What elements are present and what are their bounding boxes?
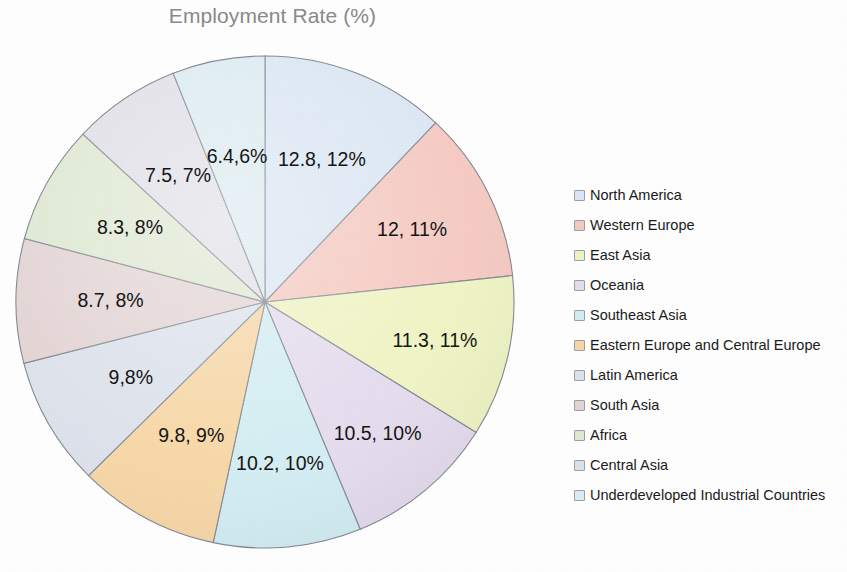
legend-item[interactable]: Southeast Asia (574, 300, 844, 330)
legend-item-label: Central Asia (590, 458, 668, 473)
legend-item[interactable]: Eastern Europe and Central Europe (574, 330, 844, 360)
pie-slice-label: 9.8, 9% (158, 424, 224, 446)
chart-legend: North AmericaWestern EuropeEast AsiaOcea… (574, 180, 844, 510)
pie-slice-label: 6.4,6% (207, 145, 268, 167)
legend-item-label: Africa (590, 428, 627, 443)
legend-item-label: Underdeveloped Industrial Countries (590, 488, 825, 503)
legend-item[interactable]: South Asia (574, 390, 844, 420)
legend-item-label: Oceania (590, 278, 644, 293)
legend-item[interactable]: Underdeveloped Industrial Countries (574, 480, 844, 510)
legend-swatch-icon (574, 220, 585, 231)
legend-item[interactable]: Africa (574, 420, 844, 450)
chart-title: Employment Rate (%) (0, 4, 545, 28)
legend-swatch-icon (574, 340, 585, 351)
pie-slice-label: 12.8, 12% (278, 148, 366, 170)
legend-item-label: North America (590, 188, 682, 203)
legend-item-label: South Asia (590, 398, 659, 413)
pie-slice-label: 12, 11% (377, 218, 447, 240)
legend-swatch-icon (574, 460, 585, 471)
legend-item[interactable]: East Asia (574, 240, 844, 270)
pie-slice-label: 11.3, 11% (392, 329, 477, 351)
pie-slice-label: 9,8% (109, 366, 153, 388)
legend-swatch-icon (574, 490, 585, 501)
legend-swatch-icon (574, 370, 585, 381)
legend-swatch-icon (574, 310, 585, 321)
legend-item-label: Eastern Europe and Central Europe (590, 338, 821, 353)
legend-swatch-icon (574, 430, 585, 441)
pie-slice-label: 10.2, 10% (236, 452, 324, 474)
legend-item[interactable]: Oceania (574, 270, 844, 300)
legend-item-label: Latin America (590, 368, 678, 383)
legend-swatch-icon (574, 280, 585, 291)
legend-item-label: Southeast Asia (590, 308, 687, 323)
legend-item-label: East Asia (590, 248, 650, 263)
pie-chart-canvas: 12.8, 12%12, 11%11.3, 11%10.5, 10%10.2, … (0, 30, 560, 572)
legend-item[interactable]: Central Asia (574, 450, 844, 480)
pie-slice-label: 7.5, 7% (145, 164, 211, 186)
legend-item-label: Western Europe (590, 218, 695, 233)
legend-swatch-icon (574, 190, 585, 201)
pie-slice-label: 8.3, 8% (97, 216, 163, 238)
legend-swatch-icon (574, 400, 585, 411)
legend-item[interactable]: North America (574, 180, 844, 210)
legend-item[interactable]: Latin America (574, 360, 844, 390)
legend-item[interactable]: Western Europe (574, 210, 844, 240)
pie-chart-figure: Employment Rate (%) 12.8, 12%12, 11%11.3… (0, 0, 847, 572)
legend-swatch-icon (574, 250, 585, 261)
pie-slice-label: 10.5, 10% (334, 422, 422, 444)
pie-slice-label: 8.7, 8% (78, 289, 144, 311)
